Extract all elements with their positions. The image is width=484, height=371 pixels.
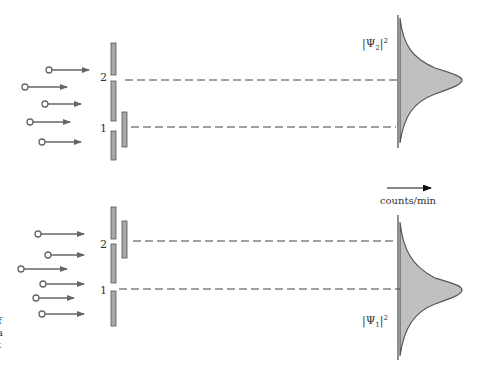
svg-text:t: t (0, 339, 1, 350)
particle-arrow (45, 252, 84, 258)
counts-per-min-label: counts/min (380, 195, 437, 206)
shutter-slit-2 (122, 221, 127, 258)
slit-barrier-bottom (111, 207, 116, 326)
particle-arrow (27, 119, 70, 125)
probability-curve-psi1 (400, 222, 462, 356)
slit-barrier-top (111, 43, 116, 160)
particle-arrow (39, 139, 81, 145)
slit-label-2: 2 (100, 238, 107, 251)
top-panel: 2 1 |Ψ2|2 (22, 15, 462, 160)
particle-arrow (18, 266, 67, 272)
particle-arrow (39, 311, 84, 317)
probability-curve-psi2 (400, 18, 462, 143)
double-slit-diagram: 2 1 |Ψ2|2 counts/min 2 1 (0, 0, 484, 371)
slit-label-2: 2 (100, 71, 107, 84)
particle-arrow (33, 295, 74, 301)
particle-beam-top (22, 67, 89, 145)
svg-text:a: a (0, 327, 3, 338)
svg-text:f: f (0, 315, 3, 326)
counts-axis-indicator: counts/min (380, 188, 437, 206)
particle-beam-bottom (18, 231, 84, 317)
psi2-label: |Ψ2|2 (362, 37, 388, 52)
slit-label-1: 1 (100, 284, 107, 297)
slit-label-1: 1 (100, 122, 107, 135)
particle-arrow (42, 101, 81, 107)
particle-arrow (22, 84, 67, 90)
particle-arrow (35, 231, 84, 237)
particle-arrow (40, 281, 84, 287)
cropped-caption-fragment: f a t (0, 315, 3, 350)
bottom-panel: 2 1 |Ψ1|2 (18, 207, 462, 360)
shutter-slit-1 (122, 112, 127, 147)
particle-arrow (46, 67, 89, 73)
psi1-label: |Ψ1|2 (362, 314, 388, 329)
